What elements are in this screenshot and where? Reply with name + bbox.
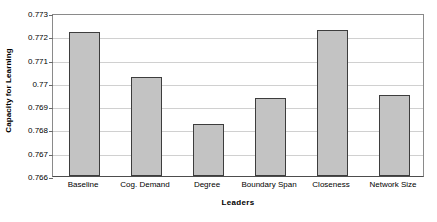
y-axis-tick-label: 0.767	[28, 149, 48, 158]
x-axis-tick-label: Closeness	[312, 180, 349, 189]
bar-chart: Capacity for Learning 0.7660.7670.7680.7…	[0, 0, 437, 222]
y-axis-tick-label: 0.771	[28, 56, 48, 65]
bar	[131, 77, 162, 176]
x-axis-tick-label: Cog. Demand	[120, 180, 169, 189]
bar	[317, 30, 348, 176]
x-axis-tick-label: Boundary Span	[241, 180, 296, 189]
bars-layer	[53, 15, 423, 176]
bar	[379, 95, 410, 176]
y-axis-tick-labels: 0.7660.7670.7680.7690.770.7710.7720.773	[16, 0, 51, 182]
y-axis-tick-label: 0.768	[28, 126, 48, 135]
y-axis-tick-label: 0.772	[28, 33, 48, 42]
x-axis-tick-label: Degree	[194, 180, 220, 189]
y-axis-tick-label: 0.766	[28, 173, 48, 182]
x-axis-tick-label: Network Size	[369, 180, 416, 189]
x-axis-tick-label: Baseline	[68, 180, 99, 189]
plot-area	[52, 14, 424, 177]
y-axis-title-text: Capacity for Learning	[4, 48, 13, 132]
bar	[255, 98, 286, 176]
y-axis-title: Capacity for Learning	[0, 0, 16, 180]
y-axis-tick-label: 0.769	[28, 103, 48, 112]
y-axis-tick-label: 0.77	[32, 79, 48, 88]
bar	[193, 124, 224, 176]
y-axis-tick-mark	[49, 178, 53, 179]
bar	[69, 32, 100, 176]
y-axis-tick-label: 0.773	[28, 10, 48, 19]
x-axis-tick-labels: BaselineCog. DemandDegreeBoundary SpanCl…	[52, 180, 424, 196]
x-axis-title: Leaders	[52, 198, 424, 207]
